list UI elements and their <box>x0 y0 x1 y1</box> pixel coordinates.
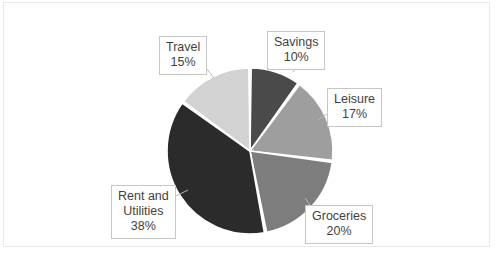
pie-label-leisure-name: Leisure <box>334 92 375 107</box>
pie-label-groceries-name: Groceries <box>312 209 366 224</box>
pie-label-rent-value: 38% <box>118 219 169 234</box>
pie-label-savings: Savings 10% <box>267 31 325 70</box>
pie-chart-screenshot: Savings 10% Leisure 17% Groceries 20% Re… <box>0 0 502 260</box>
pie-label-travel-name: Travel <box>166 40 200 55</box>
pie-label-travel: Travel 15% <box>159 36 207 75</box>
pie-label-travel-value: 15% <box>166 55 200 70</box>
pie-label-savings-value: 10% <box>274 50 318 65</box>
pie-label-rent-line1: Rent and <box>118 189 169 204</box>
pie-chart-graphic <box>0 0 502 260</box>
pie-label-leisure: Leisure 17% <box>327 88 382 127</box>
pie-label-groceries-value: 20% <box>312 224 366 239</box>
pie-label-groceries: Groceries 20% <box>305 205 373 244</box>
pie-label-rent-line2: Utilities <box>118 204 169 219</box>
pie-label-rent-and-utilities: Rent and Utilities 38% <box>111 185 176 239</box>
pie-label-savings-name: Savings <box>274 35 318 50</box>
pie-label-leisure-value: 17% <box>334 107 375 122</box>
